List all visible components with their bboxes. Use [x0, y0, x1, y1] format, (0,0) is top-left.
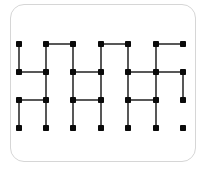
grid-dot	[125, 125, 131, 131]
grid-dot	[180, 125, 186, 131]
grid-dot	[125, 97, 131, 103]
grid-dot	[153, 125, 159, 131]
grid-dot	[16, 97, 22, 103]
line-segments	[19, 44, 183, 128]
grid-dot	[16, 125, 22, 131]
grid-dot	[16, 69, 22, 75]
grid-dot	[180, 69, 186, 75]
grid-dot	[70, 41, 76, 47]
grid-dot	[70, 69, 76, 75]
grid-dot	[98, 41, 104, 47]
grid-dot	[70, 97, 76, 103]
grid-dot	[43, 41, 49, 47]
grid-dot	[153, 69, 159, 75]
grid-dot	[98, 125, 104, 131]
grid-dot	[125, 69, 131, 75]
grid-dot	[43, 97, 49, 103]
grid-dot	[98, 69, 104, 75]
grid-dot	[153, 41, 159, 47]
dot-line-pattern-diagram	[0, 0, 208, 175]
grid-dot	[180, 97, 186, 103]
grid-dot	[16, 41, 22, 47]
grid-dot	[125, 41, 131, 47]
grid-dot	[180, 41, 186, 47]
grid-dot	[153, 97, 159, 103]
grid-dot	[43, 69, 49, 75]
grid-dot	[98, 97, 104, 103]
grid-dot	[43, 125, 49, 131]
grid-dot	[70, 125, 76, 131]
